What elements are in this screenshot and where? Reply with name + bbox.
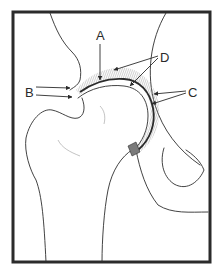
trabecular-line-2	[100, 106, 105, 124]
label-d: D	[160, 50, 169, 65]
arrow-b-upper	[36, 87, 70, 88]
obturator-loop	[162, 148, 204, 187]
femur-right-outline	[102, 150, 132, 262]
hip-joint-diagram: A B D C	[0, 0, 218, 279]
arrow-d-upper	[114, 56, 158, 70]
femoral-head-outline	[78, 86, 148, 151]
arrow-c-upper	[154, 91, 186, 94]
label-b: B	[25, 85, 34, 100]
femur-left-outline	[26, 98, 84, 262]
arrow-b-lower	[36, 95, 72, 97]
label-c: C	[188, 85, 197, 100]
figure-frame	[13, 12, 210, 262]
label-a: A	[96, 28, 105, 43]
ilium-outline	[50, 13, 81, 90]
trabecular-line	[58, 140, 80, 156]
